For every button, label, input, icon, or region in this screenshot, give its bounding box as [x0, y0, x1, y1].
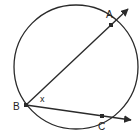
point-a-marker [109, 23, 113, 27]
circle [14, 5, 138, 129]
point-c-label: C [98, 121, 105, 132]
circle-angle-diagram: A B C x [0, 0, 140, 135]
ray-bc [26, 105, 131, 120]
point-a-label: A [106, 9, 113, 20]
point-c-marker [100, 114, 104, 118]
point-b-marker [24, 103, 28, 107]
angle-x-label: x [40, 94, 45, 104]
point-b-label: B [13, 101, 20, 112]
